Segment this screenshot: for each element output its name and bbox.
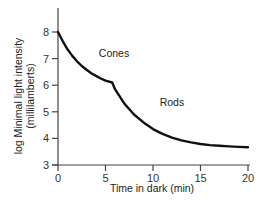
x-tick-label: 0 xyxy=(55,172,61,184)
annotation-cones: Cones xyxy=(99,47,129,59)
y-axis-label-line2: (millilamberts) xyxy=(24,63,36,128)
x-axis-label: Time in dark (min) xyxy=(110,182,194,194)
x-tick-label: 20 xyxy=(242,172,254,184)
axes xyxy=(52,8,250,166)
y-ticks: 345678 xyxy=(43,26,58,171)
x-tick-label: 5 xyxy=(102,172,108,184)
y-tick-label: 5 xyxy=(43,106,49,118)
x-tick-label: 15 xyxy=(194,172,206,184)
y-tick-label: 4 xyxy=(43,132,49,144)
annotation-rods: Rods xyxy=(160,96,185,108)
dark-adaptation-chart: 345678 05101520 ConesRods Time in dark (… xyxy=(0,0,264,209)
y-tick-label: 8 xyxy=(43,26,49,38)
annotations: ConesRods xyxy=(99,47,184,108)
y-axis-label-line1: log Minimal light intensity xyxy=(12,37,24,154)
dark-adaptation-curve xyxy=(58,32,248,147)
y-tick-label: 3 xyxy=(43,159,49,171)
y-tick-label: 6 xyxy=(43,79,49,91)
y-tick-label: 7 xyxy=(43,53,49,65)
